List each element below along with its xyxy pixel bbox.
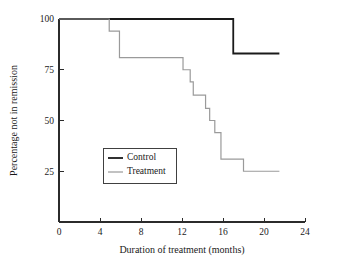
x-tick-label: 4 (98, 227, 103, 237)
series-line-control (59, 19, 279, 54)
x-tick-label: 0 (57, 227, 62, 237)
y-tick-label: 75 (45, 65, 55, 75)
x-tick-label: 8 (139, 227, 144, 237)
y-tick-label: 25 (45, 167, 55, 177)
x-axis-ticks: 04812162024 (57, 218, 310, 237)
legend-label-control: Control (127, 152, 156, 162)
x-axis-title: Duration of treatment (months) (119, 244, 244, 256)
y-axis-title: Percentage not in remission (8, 65, 19, 176)
chart-canvas: 255075100 04812162024 Duration of treatm… (0, 0, 352, 276)
y-axis-ticks: 255075100 (40, 14, 64, 176)
x-tick-label: 20 (259, 227, 269, 237)
survival-chart: 255075100 04812162024 Duration of treatm… (0, 0, 352, 276)
chart-legend: ControlTreatment (103, 148, 176, 183)
y-tick-label: 50 (45, 116, 55, 126)
x-tick-label: 16 (218, 227, 228, 237)
legend-label-treatment: Treatment (127, 166, 166, 176)
y-tick-label: 100 (40, 14, 55, 24)
x-tick-label: 12 (177, 227, 187, 237)
x-tick-label: 24 (300, 227, 310, 237)
